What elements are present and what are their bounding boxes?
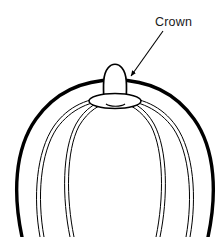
diagram-figure: Crown xyxy=(0,0,222,237)
meridian-outer-left xyxy=(37,97,113,237)
meridian-inner-left xyxy=(65,99,113,237)
meridian-outer-right xyxy=(117,97,193,237)
meridian-inner-right xyxy=(117,99,165,237)
crown-label: Crown xyxy=(155,15,192,29)
crown-leader-line xyxy=(131,31,163,76)
crown-diagram-svg: Crown xyxy=(0,0,222,237)
crown-finial xyxy=(89,64,141,108)
